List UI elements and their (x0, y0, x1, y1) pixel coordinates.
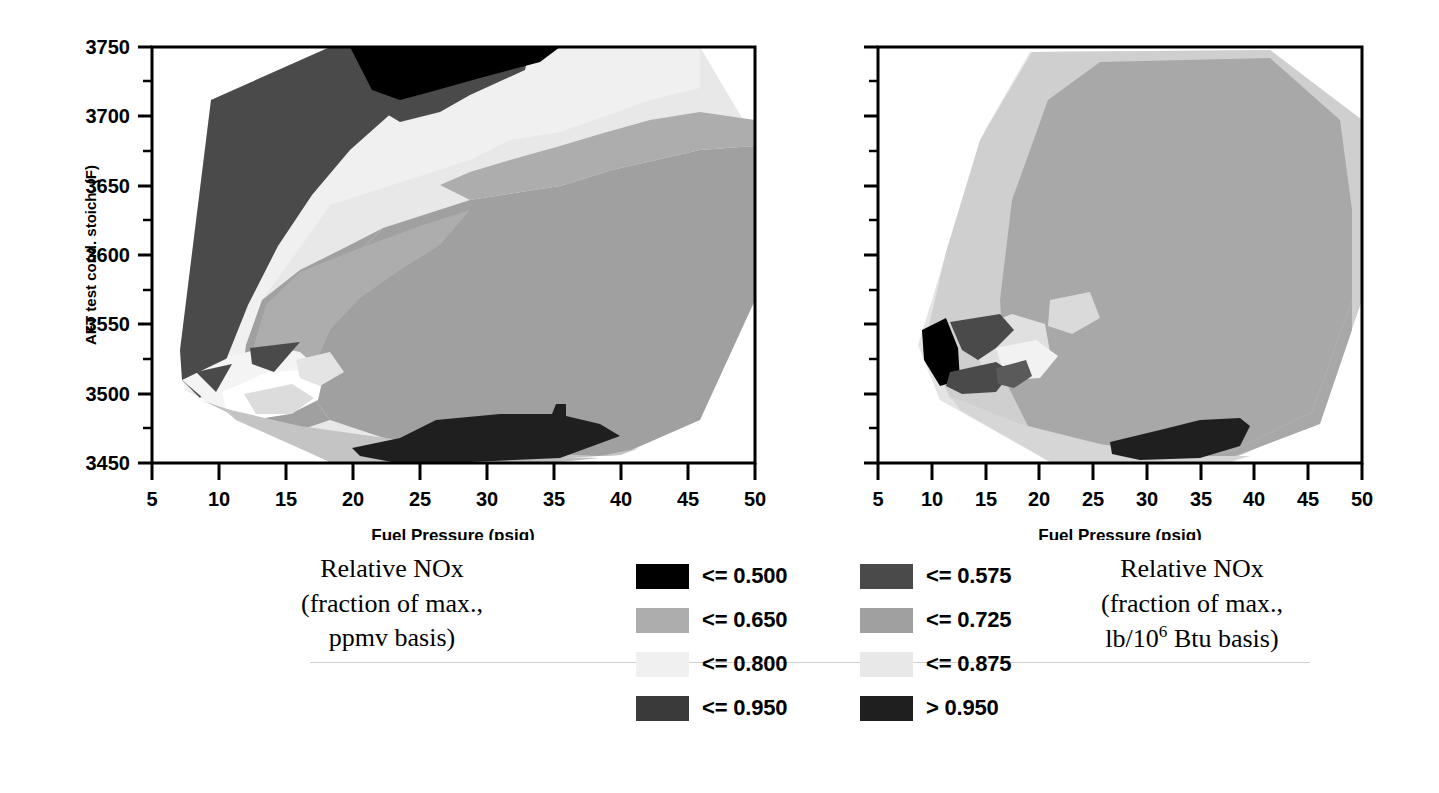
caption-line-1: Relative NOx (232, 552, 552, 587)
legend-label: <= 0.875 (926, 651, 1011, 677)
x-tick-label: 25 (1082, 488, 1104, 510)
caption-line-3: ppmv basis) (232, 621, 552, 656)
x-tick-label: 50 (744, 488, 766, 510)
x-tick-label: 20 (342, 488, 364, 510)
y-tick-label: 3750 (86, 36, 131, 58)
x-tick-label: 35 (543, 488, 565, 510)
legend-swatch-icon (636, 564, 689, 589)
legend-item-0875[interactable]: <= 0.875 (860, 642, 1036, 686)
x-tick-label: 10 (208, 488, 230, 510)
y-tick-label: 3700 (86, 105, 131, 127)
legend-label: <= 0.950 (702, 695, 787, 721)
x-tick-label: 45 (677, 488, 699, 510)
x-tick-label: 20 (1028, 488, 1050, 510)
contour-plot-right: 5 10 15 20 25 30 35 40 45 50 Fuel Pressu… (800, 0, 1439, 540)
y-axis-right (864, 47, 878, 463)
legend-item-0575[interactable]: <= 0.575 (860, 554, 1036, 598)
legend-label: <= 0.650 (702, 607, 787, 633)
legend-label: <= 0.500 (702, 563, 787, 589)
contour-regions-left (180, 47, 755, 462)
x-tick-label: 35 (1190, 488, 1212, 510)
legend-label: <= 0.800 (702, 651, 787, 677)
legend-item-gt0950[interactable]: > 0.950 (860, 686, 1036, 730)
legend-item-0800[interactable]: <= 0.800 (636, 642, 812, 686)
legend-item-0725[interactable]: <= 0.725 (860, 598, 1036, 642)
contour-panel-lb-btu: 5 10 15 20 25 30 35 40 45 50 Fuel Pressu… (800, 0, 1439, 540)
legend-label: <= 0.575 (926, 563, 1011, 589)
x-tick-label: 30 (476, 488, 498, 510)
x-tick-label: 30 (1136, 488, 1158, 510)
y-tick-label: 3500 (86, 383, 131, 405)
x-tick-label: 40 (1243, 488, 1265, 510)
region-right-0725 (1000, 58, 1352, 456)
legend-item-0950[interactable]: <= 0.950 (636, 686, 812, 730)
caption-ppmv: Relative NOx (fraction of max., ppmv bas… (232, 552, 552, 656)
x-tick-label: 40 (610, 488, 632, 510)
x-tick-label: 15 (975, 488, 997, 510)
legend-label: <= 0.725 (926, 607, 1011, 633)
contour-panel-ppmv: 3750 3700 3650 3600 3550 3500 3450 AFT t… (0, 0, 800, 540)
x-tick-label: 5 (872, 488, 883, 510)
legend-swatch-icon (636, 696, 689, 721)
legend-label: > 0.950 (926, 695, 999, 721)
legend-swatch-icon (860, 652, 913, 677)
caption-lb-btu: Relative NOx (fraction of max., lb/106 B… (1012, 552, 1372, 656)
x-tick-label: 10 (921, 488, 943, 510)
x-tick-label: 45 (1297, 488, 1319, 510)
caption-line-2: (fraction of max., (232, 587, 552, 622)
x-axis-title: Fuel Pressure (psig) (1038, 526, 1201, 540)
legend-swatch-icon (636, 652, 689, 677)
caption-line-3-pre: lb/10 (1105, 624, 1158, 653)
x-axis-right: 5 10 15 20 25 30 35 40 45 50 (872, 463, 1373, 510)
x-tick-label: 25 (409, 488, 431, 510)
legend-item-0650[interactable]: <= 0.650 (636, 598, 812, 642)
x-tick-label: 50 (1351, 488, 1373, 510)
x-axis-left: 5 10 15 20 25 30 35 40 45 50 (146, 463, 766, 510)
legend-swatch-icon (860, 564, 913, 589)
contour-plot-left: 3750 3700 3650 3600 3550 3500 3450 AFT t… (0, 0, 800, 540)
caption-line-3-post: Btu basis) (1167, 624, 1278, 653)
y-axis-title: AFT test cond. stoich. (F) (82, 165, 99, 345)
x-axis-title: Fuel Pressure (psig) (371, 526, 534, 540)
caption-line-2: (fraction of max., (1012, 587, 1372, 622)
legend-swatch-icon (860, 608, 913, 633)
legend-item-0500[interactable]: <= 0.500 (636, 554, 812, 598)
caption-line-3: lb/106 Btu basis) (1012, 621, 1372, 656)
legend-swatch-icon (860, 696, 913, 721)
legend-swatch-grid: <= 0.500 <= 0.575 <= 0.650 <= 0.725 <= 0… (636, 554, 1036, 730)
x-tick-label: 5 (146, 488, 157, 510)
x-tick-label: 15 (275, 488, 297, 510)
legend-area: Relative NOx (fraction of max., ppmv bas… (0, 540, 1439, 793)
figure-root: 3750 3700 3650 3600 3550 3500 3450 AFT t… (0, 0, 1439, 793)
y-tick-label: 3450 (86, 452, 131, 474)
caption-line-1: Relative NOx (1012, 552, 1372, 587)
legend-swatch-icon (636, 608, 689, 633)
